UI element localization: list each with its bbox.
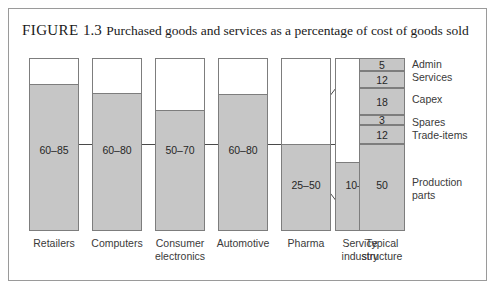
legend-label-production-parts-line2: parts — [412, 189, 462, 202]
bar-value-automotive: 60–80 — [219, 144, 267, 156]
legend-label-capex: Capex — [412, 93, 442, 106]
segment-production-parts[interactable]: 50 — [359, 144, 405, 231]
x-label-typical-structure: Typical structure — [349, 237, 415, 262]
segment-value-admin: 5 — [360, 59, 404, 71]
bar-fill-automotive[interactable]: 60–80 — [218, 94, 268, 231]
figure-frame: FIGURE 1.3 Purchased goods and services … — [8, 8, 487, 281]
x-label-computers-line1: Computers — [84, 237, 150, 250]
segment-services[interactable]: 12 — [359, 71, 405, 88]
x-label-computers: Computers — [84, 237, 150, 250]
bar-value-consumer-electronics: 50–70 — [156, 144, 204, 156]
x-label-consumer-electronics-line2: electronics — [147, 250, 213, 263]
bar-value-pharma: 25–50 — [282, 179, 330, 191]
x-label-retailers-line1: Retailers — [21, 237, 87, 250]
segment-value-trade-items: 12 — [360, 129, 404, 141]
segment-spares[interactable]: 3 — [359, 115, 405, 125]
legend-label-spares: Spares — [412, 116, 445, 129]
legend-label-production-parts-line1: Production — [412, 176, 462, 189]
legend-label-admin: Admin — [412, 58, 442, 71]
segment-trade-items[interactable]: 12 — [359, 125, 405, 144]
segment-value-production-parts: 50 — [360, 179, 404, 191]
segment-value-capex: 18 — [360, 96, 404, 108]
bar-value-retailers: 60–85 — [30, 144, 78, 156]
x-label-typical-structure-line2: structure — [349, 250, 415, 263]
bar-column-typical-structure: 5 12 18 3 12 50 — [359, 58, 405, 231]
x-label-automotive-line1: Automotive — [210, 237, 276, 250]
chart-plot-area: 60–85 Retailers 60–80 Computers 50–70 Co… — [9, 9, 488, 282]
x-label-automotive: Automotive — [210, 237, 276, 250]
bar-column-automotive: 60–80 — [218, 58, 268, 231]
bar-value-computers: 60–80 — [93, 144, 141, 156]
x-label-consumer-electronics-line1: Consumer — [147, 237, 213, 250]
segment-admin[interactable]: 5 — [359, 58, 405, 71]
bar-column-retailers: 60–85 — [29, 58, 79, 231]
bar-column-computers: 60–80 — [92, 58, 142, 231]
x-label-retailers: Retailers — [21, 237, 87, 250]
bar-column-consumer-electronics: 50–70 — [155, 58, 205, 231]
legend-label-production-parts: Production parts — [412, 176, 462, 201]
segment-capex[interactable]: 18 — [359, 88, 405, 115]
bar-fill-consumer-electronics[interactable]: 50–70 — [155, 110, 205, 231]
bar-fill-pharma[interactable]: 25–50 — [281, 144, 331, 231]
x-label-typical-structure-line1: Typical — [349, 237, 415, 250]
bar-fill-retailers[interactable]: 60–85 — [29, 84, 79, 231]
x-label-consumer-electronics: Consumer electronics — [147, 237, 213, 262]
legend-label-services: Services — [412, 71, 452, 84]
bar-fill-computers[interactable]: 60–80 — [92, 93, 142, 231]
segment-value-services: 12 — [360, 74, 404, 86]
bar-column-pharma: 25–50 — [281, 58, 331, 231]
legend-label-trade-items: Trade-items — [412, 129, 468, 142]
